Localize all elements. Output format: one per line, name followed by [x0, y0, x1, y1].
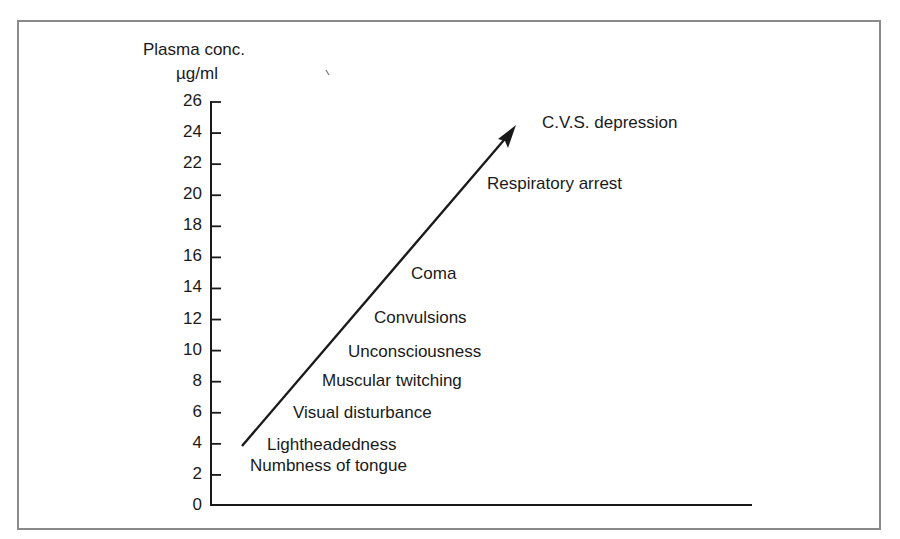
y-axis-unit: µg/ml: [176, 64, 218, 84]
effect-numbness-of-tongue: Numbness of tongue: [250, 456, 407, 476]
scan-speck: [326, 70, 329, 75]
y-tick-label: 4: [162, 434, 202, 452]
y-tick-label: 2: [162, 465, 202, 483]
effect-respiratory-arrest: Respiratory arrest: [487, 174, 622, 194]
y-axis-title: Plasma conc.: [143, 40, 245, 60]
y-tick-label: 16: [162, 247, 202, 265]
y-tick-label: 14: [162, 278, 202, 296]
y-tick-label: 26: [162, 92, 202, 110]
effect-coma: Coma: [411, 264, 456, 284]
y-tick-label: 22: [162, 154, 202, 172]
y-tick-label: 8: [162, 372, 202, 390]
y-axis-ticks: [211, 102, 221, 475]
effect-cvs-depression: C.V.S. depression: [542, 113, 677, 133]
effect-convulsions: Convulsions: [374, 308, 467, 328]
y-tick-label: 24: [162, 123, 202, 141]
y-tick-label: 12: [162, 310, 202, 328]
y-tick-label: 20: [162, 185, 202, 203]
y-tick-label: 6: [162, 403, 202, 421]
y-tick-label: 10: [162, 341, 202, 359]
effect-lightheadedness: Lightheadedness: [267, 435, 397, 455]
effect-muscular-twitching: Muscular twitching: [322, 371, 462, 391]
severity-arrow: [242, 133, 510, 446]
effect-visual-disturbance: Visual disturbance: [293, 403, 432, 423]
effect-unconsciousness: Unconsciousness: [348, 342, 481, 362]
y-tick-label: 0: [162, 496, 202, 514]
y-tick-label: 18: [162, 216, 202, 234]
